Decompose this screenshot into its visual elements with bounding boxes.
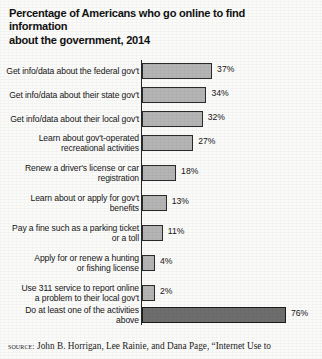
bar [142, 225, 163, 241]
category-label: Get info/data about their state gov't [0, 90, 139, 100]
bar [142, 135, 193, 151]
bar [142, 165, 176, 181]
plot-area: Get info/data about the federal gov't37%… [0, 58, 322, 330]
category-label: Pay a fine such as a parking ticket or a… [0, 223, 139, 243]
bar-container [142, 285, 155, 301]
bar-container [142, 165, 176, 181]
category-label: Get info/data about the federal gov't [0, 66, 139, 76]
source-text: John B. Horrigan, Lee Rainie, and Dana P… [37, 341, 271, 351]
chart-title: Percentage of Americans who go online to… [9, 6, 300, 46]
bar [142, 255, 155, 271]
bar-value-label: 32% [208, 112, 225, 122]
bar-container [142, 195, 167, 211]
bar-container [142, 135, 193, 151]
bar-value-label: 76% [291, 308, 308, 318]
bar-container [142, 255, 155, 271]
category-label: Use 311 service to report online a probl… [0, 283, 139, 303]
bar-container [142, 87, 206, 103]
chart-row: Get info/data about their local gov't32% [0, 108, 322, 130]
bar-value-label: 4% [160, 256, 172, 266]
chart-row: Apply for or renew a hunting or fishing … [0, 252, 322, 274]
category-label: Renew a driver's license or car registra… [0, 163, 139, 183]
bar-container [142, 225, 163, 241]
bar-container [142, 111, 203, 127]
source-label: source: [8, 341, 35, 351]
category-label: Do at least one of the activities above [0, 305, 139, 325]
bar [142, 285, 155, 301]
bar-container [142, 307, 286, 323]
bar-container [142, 63, 212, 79]
chart-row: Learn about or apply for gov't benefits1… [0, 192, 322, 214]
chart-figure: Percentage of Americans who go online to… [0, 0, 322, 359]
bar-value-label: 34% [211, 88, 228, 98]
bar-value-label: 27% [198, 136, 215, 146]
bar-value-label: 2% [160, 286, 172, 296]
chart-row: Renew a driver's license or car registra… [0, 162, 322, 184]
bar-value-label: 18% [181, 166, 198, 176]
bar [142, 87, 206, 103]
bar [142, 63, 212, 79]
category-label: Apply for or renew a hunting or fishing … [0, 253, 139, 273]
bar [142, 111, 203, 127]
chart-row: Learn about gov't-operated recreational … [0, 132, 322, 154]
source-note: source: John B. Horrigan, Lee Rainie, an… [8, 341, 318, 352]
bar-value-label: 37% [217, 64, 234, 74]
bar-value-label: 11% [168, 226, 185, 236]
bar [142, 195, 167, 211]
category-label: Learn about or apply for gov't benefits [0, 193, 139, 213]
chart-row: Get info/data about the federal gov't37% [0, 60, 322, 82]
bar-value-label: 13% [172, 196, 189, 206]
chart-row: Pay a fine such as a parking ticket or a… [0, 222, 322, 244]
chart-row: Get info/data about their state gov't34% [0, 84, 322, 106]
chart-row: Do at least one of the activities above7… [0, 304, 322, 326]
chart-row: Use 311 service to report online a probl… [0, 282, 322, 304]
category-label: Learn about gov't-operated recreational … [0, 133, 139, 153]
bar [142, 307, 286, 323]
category-label: Get info/data about their local gov't [0, 114, 139, 124]
